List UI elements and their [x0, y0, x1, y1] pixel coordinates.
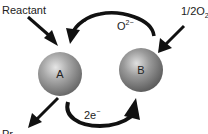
product-label-partial: Pr: [2, 128, 13, 134]
electron-transfer-arrow: [67, 98, 140, 126]
diagram-canvas: [0, 0, 208, 134]
reactant-arrow: [28, 17, 58, 46]
sphere-a-label: A: [50, 68, 70, 80]
oxide-ion-label: O2−: [117, 19, 134, 32]
product-arrow: [28, 98, 58, 128]
reactant-label: Reactant: [2, 4, 46, 16]
oxide-transfer-arrow: [66, 13, 154, 44]
half-oxygen-label: 1/2O2: [181, 5, 208, 19]
oxygen-arrow: [158, 26, 184, 53]
electrons-label: 2e−: [84, 108, 100, 121]
sphere-b-label: B: [131, 64, 151, 76]
